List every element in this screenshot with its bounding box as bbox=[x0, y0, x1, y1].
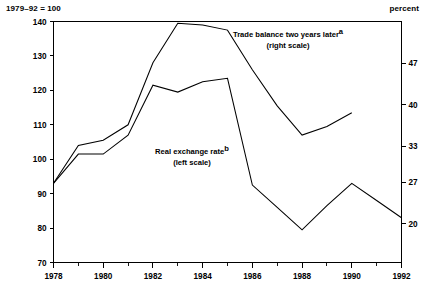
x-axis-tick-label: 1988 bbox=[293, 272, 312, 281]
x-axis-tick-label: 1986 bbox=[243, 272, 262, 281]
left-axis-tick-label: 110 bbox=[33, 121, 47, 130]
right-axis-tick-label: 47 bbox=[409, 59, 419, 68]
left-axis-tick-label: 130 bbox=[33, 52, 47, 61]
series-label-real-exchange-rate-line1: Real exchange rate bbox=[155, 147, 224, 156]
left-axis-tick-label: 90 bbox=[37, 190, 47, 199]
left-axis-ticks: 708090100110120130140 bbox=[33, 18, 54, 268]
left-axis-tick-label: 100 bbox=[33, 155, 47, 164]
right-axis-ticks: 2027334047 bbox=[402, 59, 419, 229]
series-label-real-exchange-rate: Real exchange rateb (left scale) bbox=[155, 144, 229, 167]
right-axis-tick-label: 27 bbox=[409, 178, 419, 187]
x-axis-tick-label: 1992 bbox=[392, 272, 411, 281]
right-axis-tick-label: 20 bbox=[409, 220, 419, 229]
left-axis-tick-label: 120 bbox=[33, 86, 47, 95]
svg-text:Real exchange rateb: Real exchange rateb bbox=[155, 144, 229, 156]
right-axis-unit-label: percent bbox=[389, 4, 419, 13]
x-axis-tick-label: 1990 bbox=[343, 272, 362, 281]
series-line-real-exchange-rate bbox=[54, 78, 402, 229]
right-axis-tick-label: 33 bbox=[409, 142, 419, 151]
data-series-group bbox=[54, 23, 402, 230]
chart-frame bbox=[54, 22, 402, 263]
left-axis-tick-label: 140 bbox=[33, 18, 47, 27]
left-axis-unit-label: 1979–92 = 100 bbox=[6, 4, 61, 13]
svg-text:Trade balance two years latera: Trade balance two years latera bbox=[233, 27, 344, 39]
left-axis-tick-label: 80 bbox=[37, 224, 47, 233]
x-axis-tick-label: 1982 bbox=[144, 272, 163, 281]
left-axis-tick-label: 70 bbox=[37, 259, 47, 268]
series-label-real-exchange-rate-footnote: b bbox=[224, 144, 229, 153]
x-axis-tick-label: 1980 bbox=[94, 272, 113, 281]
series-label-trade-balance-line2: (right scale) bbox=[266, 41, 310, 50]
x-axis-ticks: 19781980198219841986198819901992 bbox=[44, 263, 411, 281]
x-axis-tick-label: 1984 bbox=[194, 272, 213, 281]
x-axis-tick-label: 1978 bbox=[44, 272, 63, 281]
right-axis-tick-label: 40 bbox=[409, 101, 419, 110]
series-label-trade-balance-footnote: a bbox=[339, 27, 344, 36]
series-label-trade-balance-line1: Trade balance two years later bbox=[233, 30, 339, 39]
chart-figure: 1979–92 = 100 percent 708090100110120130… bbox=[0, 0, 427, 290]
line-chart-plot: 708090100110120130140 2027334047 1978198… bbox=[0, 0, 427, 290]
series-label-real-exchange-rate-line2: (left scale) bbox=[173, 158, 211, 167]
series-label-trade-balance: Trade balance two years latera (right sc… bbox=[233, 27, 344, 50]
plot-frame bbox=[54, 22, 402, 263]
